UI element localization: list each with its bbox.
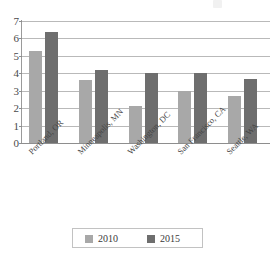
chart-legend: 20102015	[72, 228, 203, 248]
x-axis-label-minneapolis-mn: Minneapolis, MN	[76, 107, 125, 156]
legend-swatch-2015	[147, 235, 155, 243]
x-axis-label-san-francisco-ca: San Francisco, CA	[176, 105, 228, 157]
x-axis-category-labels: Portland, ORMinneapolis, MNWashington, D…	[0, 0, 275, 265]
legend-label-2010: 2010	[98, 234, 118, 244]
bar-chart: 01234567 Portland, ORMinneapolis, MNWash…	[0, 0, 275, 265]
x-axis-label-seattle-wa: Seattle, WA	[225, 121, 260, 156]
x-axis-label-washington-dc: Washington, DC	[126, 110, 172, 156]
legend-swatch-2010	[85, 235, 93, 243]
legend-entry-2010: 2010	[85, 233, 118, 245]
legend-label-2015: 2015	[160, 234, 180, 244]
legend-entry-2015: 2015	[147, 233, 180, 245]
x-axis-label-portland-or: Portland, OR	[27, 118, 65, 156]
